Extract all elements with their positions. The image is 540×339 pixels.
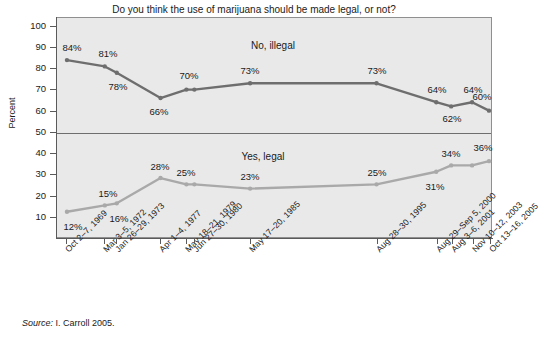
value-label: 62%: [442, 114, 461, 124]
source-text: I. Carroll 2005.: [56, 318, 115, 328]
data-point: [158, 96, 162, 100]
y-tick-label: 10: [18, 212, 46, 222]
value-label: 36%: [473, 143, 492, 153]
data-point: [192, 87, 196, 91]
value-label: 34%: [441, 149, 460, 159]
data-point: [248, 186, 252, 190]
series-line-1: [67, 60, 489, 111]
y-tick: [50, 196, 56, 197]
value-label: 70%: [179, 71, 198, 81]
y-tick: [50, 89, 56, 90]
value-label: 25%: [176, 168, 195, 178]
source-note: Source: I. Carroll 2005.: [22, 318, 115, 328]
data-point: [115, 71, 119, 75]
data-point: [434, 170, 438, 174]
y-tick-label: 20: [18, 191, 46, 201]
y-tick: [50, 26, 56, 27]
y-tick-label: 40: [18, 148, 46, 158]
data-point: [158, 176, 162, 180]
series-annotation: Yes, legal: [242, 151, 285, 162]
data-point: [449, 163, 453, 167]
data-point: [103, 203, 107, 207]
y-tick: [50, 47, 56, 48]
y-tick: [50, 153, 56, 154]
data-point: [115, 201, 119, 205]
data-point: [374, 81, 378, 85]
data-point: [449, 104, 453, 108]
data-point: [184, 182, 188, 186]
y-tick: [50, 111, 56, 112]
value-label: 84%: [62, 43, 81, 53]
y-axis-title: Percent: [7, 83, 17, 143]
data-point: [248, 81, 252, 85]
y-tick-label: 80: [18, 63, 46, 73]
value-label: 12%: [63, 222, 82, 232]
y-tick-label: 90: [18, 42, 46, 52]
value-label: 81%: [98, 49, 117, 59]
data-point: [103, 64, 107, 68]
value-label: 73%: [367, 66, 386, 76]
chart-title: Do you think the use of marijuana should…: [0, 4, 508, 15]
data-point: [374, 182, 378, 186]
value-label: 66%: [149, 107, 168, 117]
y-axis-line: [56, 17, 57, 239]
data-point: [65, 58, 69, 62]
series-annotation: No, illegal: [251, 40, 295, 51]
value-label: 28%: [150, 162, 169, 172]
data-point: [65, 210, 69, 214]
value-label: 15%: [98, 189, 117, 199]
value-label: 23%: [240, 172, 259, 182]
y-tick: [50, 174, 56, 175]
value-label: 73%: [240, 66, 259, 76]
y-tick-label: 30: [18, 169, 46, 179]
data-point: [487, 108, 491, 112]
y-tick-label: 60: [18, 106, 46, 116]
value-label: 16%: [109, 214, 128, 224]
y-tick: [50, 68, 56, 69]
y-tick-label: 100: [18, 21, 46, 31]
value-label: 60%: [472, 92, 491, 102]
y-tick: [50, 217, 56, 218]
y-tick: [50, 132, 56, 133]
data-point: [192, 182, 196, 186]
value-label: 64%: [427, 85, 446, 95]
y-tick-label: 70: [18, 84, 46, 94]
source-prefix: Source:: [22, 318, 53, 328]
data-point: [470, 163, 474, 167]
value-label: 31%: [425, 182, 444, 192]
data-point: [434, 100, 438, 104]
data-point: [487, 159, 491, 163]
y-tick-label: 50: [18, 127, 46, 137]
value-label: 78%: [108, 82, 127, 92]
value-label: 25%: [367, 168, 386, 178]
data-point: [184, 87, 188, 91]
